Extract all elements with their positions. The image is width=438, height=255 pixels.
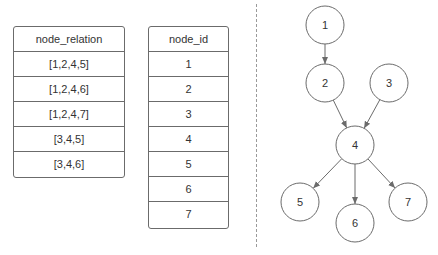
edge-4-5 [313, 159, 342, 189]
node-label: 2 [322, 77, 328, 89]
node-label: 6 [352, 217, 358, 229]
graph-nodes: 1234567 [281, 6, 427, 242]
node-label: 3 [386, 77, 392, 89]
edge-4-7 [368, 159, 395, 188]
graph-node-4: 4 [336, 126, 374, 164]
graph-node-6: 6 [336, 204, 374, 242]
node-label: 5 [297, 196, 303, 208]
edge-2-4 [333, 100, 346, 128]
node-label: 4 [352, 139, 358, 151]
graph-node-2: 2 [306, 64, 344, 102]
tree-graph: 1234567 [0, 0, 438, 255]
edge-3-4 [364, 100, 380, 129]
node-label: 7 [405, 196, 411, 208]
graph-node-1: 1 [306, 6, 344, 44]
graph-node-7: 7 [389, 183, 427, 221]
node-label: 1 [322, 19, 328, 31]
graph-node-3: 3 [370, 64, 408, 102]
graph-node-5: 5 [281, 183, 319, 221]
